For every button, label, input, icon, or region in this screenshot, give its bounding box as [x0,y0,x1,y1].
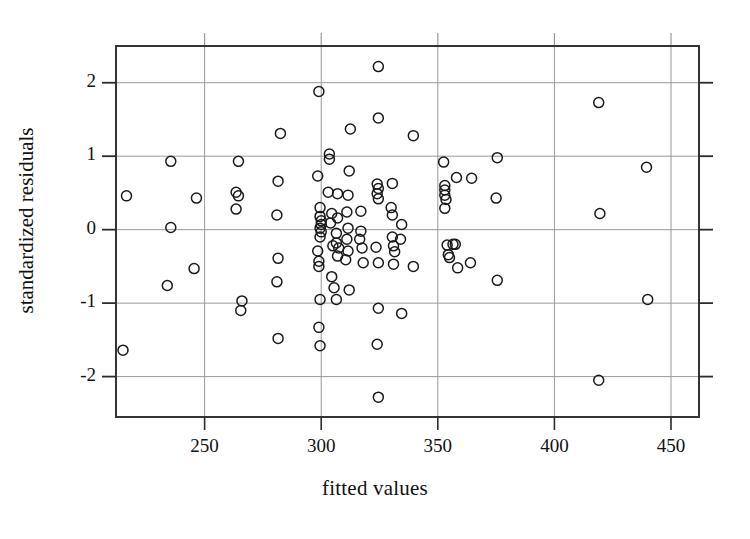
plot-canvas [0,0,750,539]
data-point [408,261,418,271]
x-tick-label: 450 [641,435,701,457]
data-point [492,275,502,285]
data-point [594,98,604,108]
tick-marks [102,33,713,430]
data-point [272,277,282,287]
data-point [357,243,367,253]
x-axis-title: fitted values [0,476,750,501]
data-point [373,62,383,72]
x-tick-label: 300 [291,435,351,457]
data-point [189,264,199,274]
data-point [273,333,283,343]
data-point [333,189,343,199]
data-points [118,62,653,403]
x-tick-label: 400 [524,435,584,457]
data-point [314,87,324,97]
data-point [344,285,354,295]
data-point [342,207,352,217]
data-point [323,187,333,197]
data-point [343,223,353,233]
data-point [162,281,172,291]
data-point [465,258,475,268]
data-point [233,156,243,166]
gridlines [116,46,699,417]
data-point [315,341,325,351]
data-point [326,218,336,228]
data-point [371,242,381,252]
plot-frame [116,46,699,417]
data-point [273,253,283,263]
y-axis-title: standardized residuals [14,127,39,313]
data-point [448,239,458,249]
y-tick-label: 0 [56,217,96,239]
data-point [237,296,247,306]
data-point [467,173,477,183]
data-point [356,206,366,216]
x-tick-label: 350 [408,435,468,457]
data-point [390,247,400,257]
y-axis-title-container: standardized residuals [0,0,52,440]
data-point [272,210,282,220]
data-point [373,113,383,123]
data-point [397,220,407,230]
data-point [595,209,605,219]
data-point [118,345,128,355]
data-point [343,190,353,200]
data-point [642,162,652,172]
y-tick-label: 1 [56,143,96,165]
data-point [327,272,337,282]
data-point [491,193,501,203]
data-point [166,222,176,232]
data-point [451,173,461,183]
y-tick-label: 2 [56,70,96,92]
data-point [341,255,351,265]
data-point [372,339,382,349]
data-point [397,308,407,318]
data-point [273,176,283,186]
y-tick-label: -2 [56,364,96,386]
data-point [342,234,352,244]
data-point [166,156,176,166]
data-point [387,210,397,220]
x-tick-label: 250 [175,435,235,457]
data-point [358,258,368,268]
data-point [236,305,246,315]
data-point [492,153,502,163]
data-point [191,193,201,203]
data-point [373,303,383,313]
scatter-plot-figure: standardized residuals fitted values 250… [0,0,750,539]
data-point [387,178,397,188]
data-point [373,258,383,268]
data-point [231,204,241,214]
data-point [275,128,285,138]
data-point [453,263,463,273]
data-point [345,124,355,134]
data-point [344,166,354,176]
data-point [439,157,449,167]
data-point [408,131,418,141]
data-point [389,259,399,269]
data-point [373,392,383,402]
data-point [121,191,131,201]
data-point [314,322,324,332]
axes-frame [116,46,699,417]
y-tick-label: -1 [56,290,96,312]
data-point [329,283,339,293]
